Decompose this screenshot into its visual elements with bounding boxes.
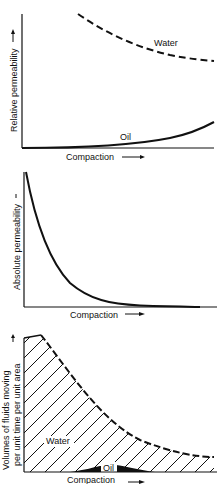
y-arrow-icon bbox=[11, 334, 15, 342]
x-arrow-icon bbox=[125, 312, 145, 316]
y-axis-label: Absolute permeability bbox=[12, 203, 22, 290]
y-axis-label-line1: Volumes of fluids moving bbox=[1, 370, 11, 470]
oil-label: Oil bbox=[120, 132, 131, 142]
water-hatch-region bbox=[0, 322, 218, 472]
x-arrow-icon bbox=[122, 155, 145, 159]
panel-fluid-volumes: Oil Water Compaction Volumes of fluids m… bbox=[0, 322, 218, 484]
x-axis-label: Compaction bbox=[66, 152, 114, 162]
water-label: Water bbox=[46, 436, 70, 446]
water-curve bbox=[78, 14, 214, 61]
y-axis-label: Relative permeability bbox=[9, 48, 19, 132]
water-boundary-curve bbox=[24, 335, 41, 338]
y-arrow-icon bbox=[11, 29, 15, 42]
x-arrow-icon bbox=[128, 480, 145, 484]
figure: Water Oil Compaction Relative permeabili… bbox=[0, 0, 218, 484]
water-label: Water bbox=[154, 38, 178, 48]
oil-curve bbox=[22, 122, 214, 148]
y-axis-label-line2: per unit time per unit area bbox=[12, 363, 22, 466]
panel-absolute-permeability: Compaction Absolute permeability bbox=[12, 172, 217, 320]
absolute-permeability-curve bbox=[26, 172, 200, 307]
x-axis-label: Compaction bbox=[67, 475, 115, 484]
panel-relative-permeability: Water Oil Compaction Relative permeabili… bbox=[9, 14, 214, 162]
x-axis-label: Compaction bbox=[70, 310, 118, 320]
